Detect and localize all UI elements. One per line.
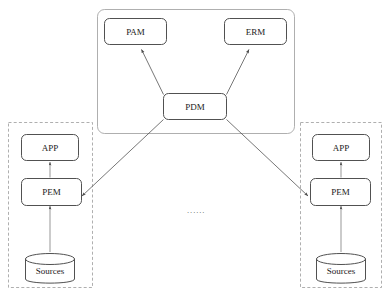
node-erm[interactable]: ERM bbox=[225, 19, 287, 45]
node-sources-left-label: Sources bbox=[36, 266, 65, 276]
node-app-right-label: APP bbox=[333, 143, 350, 153]
node-app-left[interactable]: APP bbox=[22, 135, 79, 161]
node-sources-left[interactable]: Sources bbox=[26, 254, 75, 284]
node-pdm[interactable]: PDM bbox=[164, 94, 227, 120]
node-sources-right-label: Sources bbox=[327, 266, 356, 276]
node-pam[interactable]: PAM bbox=[105, 19, 167, 45]
diagram-canvas: PAM ERM PDM APP PEM Sources bbox=[0, 0, 390, 302]
node-pdm-label: PDM bbox=[185, 102, 205, 112]
node-app-left-label: APP bbox=[42, 143, 59, 153]
node-pam-label: PAM bbox=[126, 27, 145, 37]
node-sources-right[interactable]: Sources bbox=[317, 254, 366, 284]
ellipsis-separator: ······ bbox=[187, 208, 205, 217]
node-pem-right[interactable]: PEM bbox=[311, 179, 371, 206]
node-app-right[interactable]: APP bbox=[313, 135, 370, 161]
node-pem-right-label: PEM bbox=[331, 187, 350, 197]
node-pem-left[interactable]: PEM bbox=[22, 179, 82, 206]
node-pem-left-label: PEM bbox=[42, 187, 61, 197]
node-erm-label: ERM bbox=[246, 27, 266, 37]
